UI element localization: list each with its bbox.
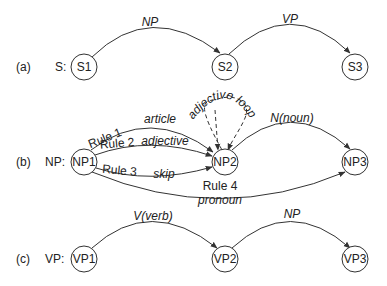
- edge-label-pronoun: pronoun: [197, 193, 242, 207]
- node-label-s1: S1: [77, 60, 92, 74]
- node-label-vp2: VP2: [214, 252, 237, 266]
- edge-np2-np3: [232, 122, 350, 150]
- row-vp-network: (c) VP: V(verb) NP VP1 VP2 VP3: [16, 207, 368, 272]
- row-tag-b: (b): [16, 155, 31, 169]
- rule4-label: Rule 4: [203, 179, 238, 193]
- edge-label-verb: V(verb): [133, 209, 172, 223]
- edge-label-adjective-loop: adjective loop: [185, 87, 260, 121]
- edge-s1-s2: [92, 27, 220, 57]
- row-s-network: (a) S: NP VP S1 S2 S3: [16, 12, 368, 80]
- edge-vp2-vp3: [232, 222, 350, 249]
- rule3-label: Rule 3: [102, 162, 138, 179]
- edge-label-vp: VP: [282, 12, 298, 26]
- node-label-np1: NP1: [72, 155, 96, 169]
- node-label-vp1: VP1: [73, 252, 96, 266]
- row-name-s: S:: [55, 60, 66, 74]
- row-tag-c: (c): [16, 252, 30, 266]
- node-label-vp3: VP3: [344, 252, 367, 266]
- edge-s2-s3: [229, 24, 350, 54]
- node-label-s3: S3: [348, 60, 363, 74]
- edge-vp1-vp2: [92, 222, 217, 249]
- node-label-s2: S2: [218, 60, 233, 74]
- node-label-np2: NP2: [213, 155, 237, 169]
- row-tag-a: (a): [16, 60, 31, 74]
- edge-label-np: NP: [142, 15, 159, 29]
- row-np-network: (b) NP: Rule 1 article Rule 2 adjective …: [16, 87, 368, 207]
- rule2-label: Rule 2: [99, 135, 135, 152]
- edge-label-skip: skip: [153, 167, 175, 181]
- node-label-np3: NP3: [343, 155, 367, 169]
- edge-label-noun: N(noun): [270, 111, 313, 125]
- edge-label-adjective: adjective: [141, 134, 189, 148]
- row-name-vp: VP:: [45, 252, 64, 266]
- row-name-np: NP:: [45, 155, 65, 169]
- edge-label-article: article: [144, 112, 176, 126]
- edge-label-vp-np: NP: [284, 207, 301, 221]
- transition-network-diagram: (a) S: NP VP S1 S2 S3 (b) NP: Rule 1 art…: [0, 0, 387, 286]
- edge-np2-loop-dash: [215, 110, 218, 150]
